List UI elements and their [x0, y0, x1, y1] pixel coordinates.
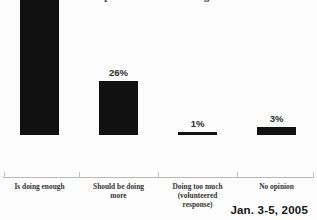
- bar[interactable]: [99, 81, 138, 135]
- category-label: Doing too much (volunteered response): [156, 182, 239, 210]
- survey-date: Jan. 3-5, 2005: [230, 204, 308, 216]
- bar-value-label: 1%: [158, 118, 237, 129]
- category-label-line: Is doing enough: [0, 182, 81, 191]
- category-label-line: No opinion: [235, 182, 317, 191]
- x-axis-baseline: [3, 177, 314, 178]
- bar-value-label: 3%: [237, 113, 316, 124]
- bar-wrap: 3%: [237, 0, 316, 135]
- bar[interactable]: [20, 0, 59, 135]
- bar[interactable]: [257, 127, 296, 135]
- category-label: Is doing enough: [0, 182, 81, 191]
- category-label-line: Doing too much: [156, 182, 239, 191]
- bar-wrap: 70%: [0, 0, 79, 135]
- axis-tick: [313, 172, 314, 177]
- bar-value-label: 26%: [79, 67, 158, 78]
- category-label-line: more: [77, 191, 160, 200]
- category-label-line: response): [156, 200, 239, 209]
- plot-area: 70% 26% 1% 3%: [0, 0, 317, 178]
- category-label-line: Should be doing: [77, 182, 160, 191]
- axis-tick: [158, 172, 159, 177]
- bar[interactable]: [178, 132, 217, 135]
- bar-group: 26%: [79, 0, 158, 135]
- bar-group: 3%: [237, 0, 316, 135]
- axis-tick: [237, 172, 238, 177]
- category-label: No opinion: [235, 182, 317, 191]
- category-label: Should be doing more: [77, 182, 160, 200]
- bar-wrap: 1%: [158, 0, 237, 135]
- bar-group: 1%: [158, 0, 237, 135]
- axis-tick: [79, 172, 80, 177]
- bar-wrap: 26%: [79, 0, 158, 135]
- axis-tick: [4, 172, 5, 177]
- category-label-line: (volunteered: [156, 191, 239, 200]
- bar-group: 70%: [0, 0, 79, 135]
- bar-chart: Gallup Poll: should be doing more. 70% 2…: [0, 0, 317, 220]
